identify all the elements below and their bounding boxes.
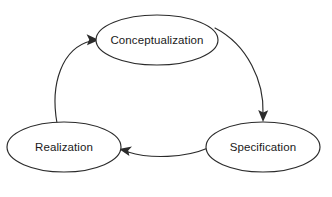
realization-label: Realization: [35, 141, 93, 153]
edge-arc: [128, 148, 208, 157]
cycle-diagram: Conceptualization Realization Specificat…: [0, 0, 332, 197]
edge-arc: [215, 28, 263, 113]
edge-conceptualization-to-specification: [215, 28, 268, 122]
conceptualization-label: Conceptualization: [110, 34, 203, 46]
edge-arc: [55, 41, 91, 123]
diagram-canvas: Conceptualization Realization Specificat…: [0, 0, 332, 197]
edge-realization-to-conceptualization: [55, 34, 99, 123]
node-specification[interactable]: Specification: [206, 122, 320, 172]
node-conceptualization[interactable]: Conceptualization: [96, 15, 218, 65]
node-layer: Conceptualization Realization Specificat…: [7, 15, 320, 172]
edge-specification-to-realization: [119, 146, 208, 156]
node-realization[interactable]: Realization: [7, 122, 121, 172]
specification-label: Specification: [230, 141, 297, 153]
